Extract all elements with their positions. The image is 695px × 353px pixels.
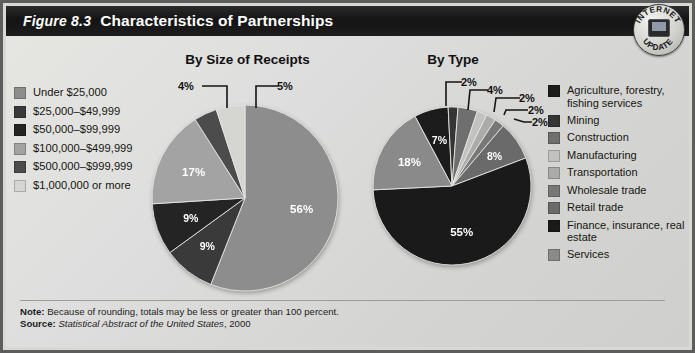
legend-left-item: $500,000–$999,999 [14,160,154,173]
pie-slice-label: 9% [200,240,216,252]
chart-title-right: By Type [398,52,508,67]
legend-right-item: Manufacturing [548,149,688,162]
legend-item-label: $25,000–$49,999 [33,105,120,118]
chart-title-left: By Size of Receipts [150,52,345,67]
note-text: Because of rounding, totals may be less … [45,306,339,317]
legend-swatch [548,150,560,162]
legend-right-item: Services [548,248,688,261]
callout-right-2pct-c: 2% [528,104,544,116]
pie-slice-label: 9% [183,212,199,224]
pie-slice-label: 55% [450,226,473,238]
source-title: Statistical Abstract of the United State… [58,318,223,329]
legend-item-label: Mining [567,114,599,127]
note-label: Note: [20,306,45,317]
legend-item-label: Finance, insurance, real estate [567,219,688,244]
callout-left-5pct: 5% [277,80,293,92]
legend-item-label: Manufacturing [567,149,637,162]
pie-slice-label: 18% [398,156,421,168]
figure-panel: Figure 8.3 Characteristics of Partnershi… [0,0,695,353]
callout-right-2pct-b: 2% [519,92,535,104]
badge-text: INTERNET UPDATE [631,2,687,56]
callout-right-2pct-a: 2% [461,76,477,88]
pie-slice-label: 8% [487,150,503,162]
legend-item-label: $500,000–$999,999 [33,160,133,173]
pie-chart-by-type: 7%8%55%18% [372,106,532,266]
figure-footnote: Note: Because of rounding, totals may be… [20,306,339,331]
legend-item-label: Construction [567,131,629,144]
callout-right-4pct: 4% [487,84,503,96]
legend-swatch [548,167,560,179]
legend-swatch [548,115,560,127]
legend-item-label: $50,000–$99,999 [33,123,120,136]
legend-item-label: Services [567,248,609,261]
legend-item-label: Under $25,000 [33,86,107,99]
figure-title: Characteristics of Partnerships [100,12,333,30]
legend-right-item: Transportation [548,166,688,179]
legend-item-label: Transportation [567,166,638,179]
footnote-note-line: Note: Because of rounding, totals may be… [20,306,339,318]
internet-update-badge[interactable]: INTERNET UPDATE [631,2,687,56]
source-year: , 2000 [224,318,251,329]
pie-slice-label: 7% [432,134,448,146]
legend-left-item: Under $25,000 [14,86,154,99]
legend-right-item: Mining [548,114,688,127]
legend-right-item: Agriculture, forestry, fishing services [548,84,688,109]
legend-swatch [14,143,26,155]
figure-titlebar: Figure 8.3 Characteristics of Partnershi… [6,6,689,36]
legend-left-item: $25,000–$49,999 [14,105,154,118]
legend-swatch [14,87,26,99]
legend-item-label: Wholesale trade [567,184,647,197]
legend-right-item: Finance, insurance, real estate [548,219,688,244]
legend-right-item: Construction [548,131,688,144]
figure-number: Figure 8.3 [23,13,91,29]
pie-svg: 7%8%55%18% [372,106,532,266]
legend-swatch [548,220,560,232]
legend-swatch [548,249,560,261]
legend-item-label: Agriculture, forestry, fishing services [567,84,688,109]
badge-line1: INTERNET [633,5,682,25]
pie-slice-label: 56% [290,203,313,215]
footnote-source-line: Source: Statistical Abstract of the Unit… [20,318,339,330]
legend-by-size-of-receipts: Under $25,000$25,000–$49,999$50,000–$99,… [14,86,154,197]
legend-right-item: Wholesale trade [548,184,688,197]
legend-swatch [548,185,560,197]
legend-swatch [548,85,560,97]
pie-chart-by-size-of-receipts: 56%9%9%17% [150,103,340,293]
legend-swatch [14,124,26,136]
legend-item-label: $1,000,000 or more [33,179,131,192]
footnote-divider [20,300,665,301]
legend-swatch [14,180,26,192]
legend-swatch [548,132,560,144]
legend-swatch [548,202,560,214]
legend-swatch [14,161,26,173]
legend-left-item: $50,000–$99,999 [14,123,154,136]
legend-left-item: $1,000,000 or more [14,179,154,192]
source-label: Source: [20,318,56,329]
legend-swatch [14,106,26,118]
legend-right-item: Retail trade [548,201,688,214]
pie-svg: 56%9%9%17% [150,103,340,293]
legend-left-item: $100,000–$499,999 [14,142,154,155]
pie-slice-label: 17% [182,166,205,178]
legend-item-label: Retail trade [567,201,623,214]
callout-right-2pct-d: 2% [532,116,548,128]
legend-by-type: Agriculture, forestry, fishing servicesM… [548,84,688,266]
legend-item-label: $100,000–$499,999 [33,142,133,155]
callout-left-4pct: 4% [178,80,194,92]
badge-line2: UPDATE [641,37,675,52]
